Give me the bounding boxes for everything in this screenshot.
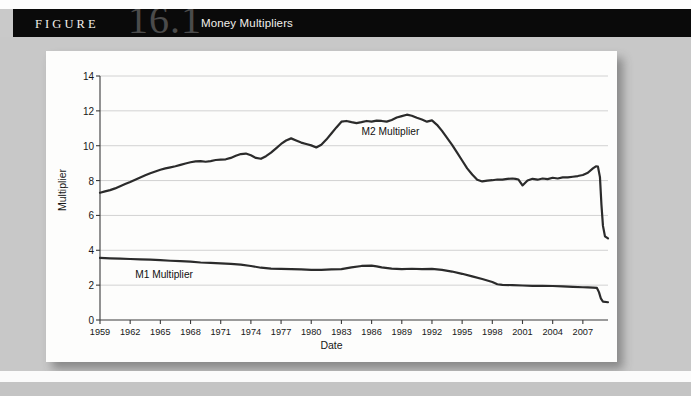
series-line-m2 bbox=[100, 115, 608, 239]
page-bottom-gray-band bbox=[0, 382, 691, 396]
plot-canvas bbox=[46, 51, 617, 362]
figure-label: FIGURE bbox=[35, 17, 99, 32]
series-label-m2: M2 Multiplier bbox=[362, 126, 420, 137]
figure-number: 16.1 bbox=[128, 9, 202, 37]
series-line-m1 bbox=[100, 258, 608, 302]
figure-title: Money Multipliers bbox=[201, 17, 293, 29]
figure-page: FIGURE 16.1 Money Multipliers Multiplier… bbox=[0, 0, 691, 396]
figure-panel: Multiplier Date 02468101214 195919621965… bbox=[46, 51, 617, 362]
series-label-m1: M1 Multiplier bbox=[135, 269, 193, 280]
page-top-margin bbox=[0, 0, 691, 9]
figure-header-banner: FIGURE 16.1 Money Multipliers bbox=[13, 9, 691, 37]
line-chart: Multiplier Date 02468101214 195919621965… bbox=[46, 51, 617, 362]
page-bottom-white-band bbox=[0, 371, 691, 382]
